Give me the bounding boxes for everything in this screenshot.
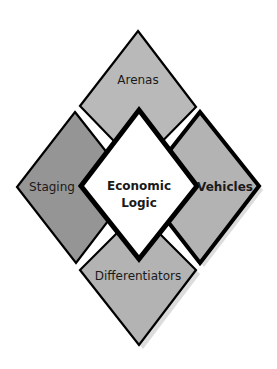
strategy-diamond-diagram: Arenas Staging Vehicles Differentiators … <box>0 0 277 369</box>
label-center-line2: Logic <box>121 196 157 210</box>
label-differentiators: Differentiators <box>95 269 182 283</box>
label-center-line1: Economic <box>107 179 171 193</box>
label-staging: Staging <box>29 180 75 194</box>
label-arenas: Arenas <box>117 73 158 87</box>
label-vehicles: Vehicles <box>197 180 253 194</box>
